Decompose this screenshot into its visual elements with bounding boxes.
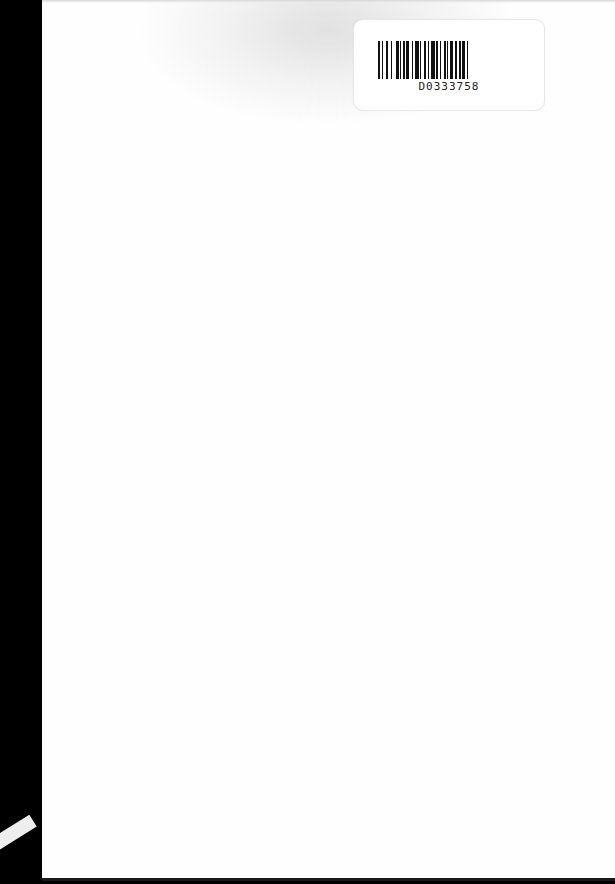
- barcode-icon: [378, 41, 520, 79]
- page-bottom-edge: [42, 878, 615, 881]
- page-corner-fold: [0, 815, 37, 851]
- barcode-number: D0333758: [354, 80, 544, 93]
- library-barcode-label: D0333758: [353, 19, 545, 111]
- scanned-page: D0333758: [42, 0, 615, 881]
